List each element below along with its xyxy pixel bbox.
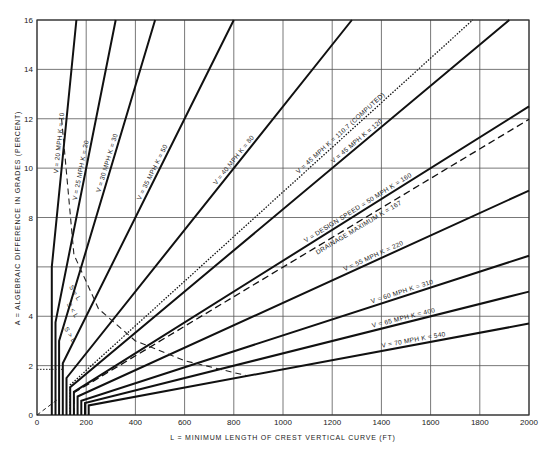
y-tick-label: 10 — [24, 164, 33, 173]
y-tick-label: 16 — [24, 16, 33, 25]
origin-dashed-line — [37, 400, 57, 415]
x-tick-label: 1400 — [373, 418, 391, 427]
x-tick-label: 1000 — [274, 418, 292, 427]
x-tick-label: 1800 — [471, 418, 489, 427]
x-tick-label: 1600 — [422, 418, 440, 427]
curve-k-540 — [89, 324, 529, 415]
y-tick-label: 8 — [29, 214, 34, 223]
curve-label: V = 60 MPH K = 310 — [370, 278, 434, 305]
curve-label: V = 45 MPH K = 120 — [329, 117, 383, 164]
crest-vertical-curve-chart: V = 20 MPH K = 10V = 25 MPH K = 20V = 30… — [0, 0, 545, 449]
x-tick-label: 1200 — [323, 418, 341, 427]
y-tick-label: 4 — [29, 312, 34, 321]
s-equals-l-label: S = L — [68, 284, 83, 302]
y-tick-label: 14 — [24, 65, 33, 74]
x-tick-label: 2000 — [520, 418, 538, 427]
x-tick-label: 200 — [80, 418, 94, 427]
curve-label: V = 35 MPH K = 50 — [135, 143, 169, 201]
y-axis-label: A = ALGEBRAIC DIFFERENCE IN GRADES (PERC… — [14, 111, 22, 325]
curve-k-220 — [78, 191, 529, 415]
x-axis-label: L = MINIMUM LENGTH OF CREST VERTICAL CUR… — [170, 434, 396, 442]
x-tick-label: 800 — [227, 418, 241, 427]
x-tick-label: 400 — [129, 418, 143, 427]
x-tick-label: 0 — [35, 418, 40, 427]
y-tick-label: 2 — [29, 362, 34, 371]
grid — [37, 20, 529, 415]
y-tick-label: 12 — [24, 115, 33, 124]
region-label: S > L — [63, 326, 78, 344]
y-tick-label: 0 — [29, 411, 34, 420]
curve-k-400 — [85, 292, 529, 415]
x-tick-label: 600 — [178, 418, 192, 427]
curve-k-160 — [74, 106, 529, 415]
